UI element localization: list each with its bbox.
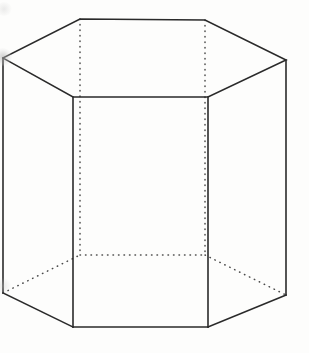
prism-diagram-svg — [0, 0, 309, 353]
top-face-outline — [3, 19, 286, 97]
hidden-edge-bottom-back-right-diagonal — [205, 255, 286, 295]
hidden-edges-group — [3, 19, 286, 295]
solid-edges-group — [3, 19, 286, 327]
hidden-edge-bottom-back-left-diagonal — [3, 255, 80, 293]
hexagonal-prism-figure — [0, 0, 309, 353]
edge-bottom-right — [208, 295, 286, 327]
edge-bottom-left — [3, 293, 73, 327]
